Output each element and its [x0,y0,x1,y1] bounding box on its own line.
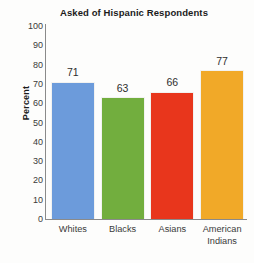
x-tick-label-line: Blacks [95,223,151,235]
y-tick-label: 90 [3,41,43,50]
x-tick-label-line: American [194,223,250,235]
bar [51,82,95,219]
y-tick-label: 30 [3,157,43,166]
x-tick-label: Whites [45,223,101,235]
y-axis-title: Percent [21,73,31,133]
y-tick-label: 10 [3,195,43,204]
x-axis-line [45,219,247,220]
x-tick-label: Blacks [95,223,151,235]
bar [200,70,244,219]
bar-group: 77 [200,26,244,219]
bar-value-label: 77 [200,56,244,67]
bar [101,97,145,219]
bar-chart: Asked of Hispanic Respondents 100 90 80 … [0,0,254,263]
x-tick-label: AmericanIndians [194,223,250,247]
y-tick-label: 40 [3,137,43,146]
bar-group: 71 [51,26,95,219]
y-tick-label: 100 [3,22,43,31]
y-tick-label: 80 [3,60,43,69]
y-tick-label: 0 [3,215,43,224]
bar [150,92,194,219]
x-tick-label: Asians [145,223,201,235]
bar-value-label: 71 [51,67,95,78]
bar-value-label: 66 [150,77,194,88]
bar-group: 63 [101,26,145,219]
bar-group: 66 [150,26,194,219]
x-tick-label-line: Asians [145,223,201,235]
bars-container: 71636677 [48,26,247,219]
x-axis-tick-labels: WhitesBlacksAsiansAmericanIndians [48,223,254,261]
x-tick-label-line: Whites [45,223,101,235]
bar-value-label: 63 [101,83,145,94]
y-tick-label: 20 [3,176,43,185]
x-tick-label-line: Indians [194,235,250,247]
y-axis-line [45,24,46,220]
